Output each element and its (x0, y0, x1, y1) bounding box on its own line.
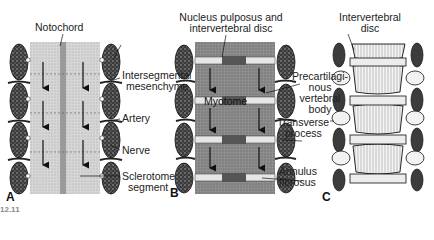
label-intervertebral-disc-line2: disc (330, 23, 410, 34)
label-intersegmental-mesenchyme-line2: mesenchyme (126, 81, 188, 92)
panel-letter-b: B (170, 186, 179, 200)
label-sclerotome-segment-line2: segment (128, 182, 168, 193)
label-nerve: Nerve (122, 145, 150, 156)
panel-letter-c: C (322, 190, 331, 204)
panel-letter-a: A (6, 190, 15, 204)
label-artery: Artery (122, 113, 150, 124)
label-transverse-process-line2: process (285, 128, 322, 139)
label-myotome: Myotome (204, 96, 247, 107)
panel-a-drawing (8, 34, 122, 194)
figure-caption-fragment: 12.11 (0, 205, 20, 212)
label-precartilaginous-line4: body (290, 104, 350, 115)
label-notochord: Notochord (35, 22, 83, 33)
label-annulus-fibrosus-line2: fibrosus (279, 177, 316, 188)
label-nucleus-pulposus-line2: intervertebral disc (176, 23, 286, 34)
